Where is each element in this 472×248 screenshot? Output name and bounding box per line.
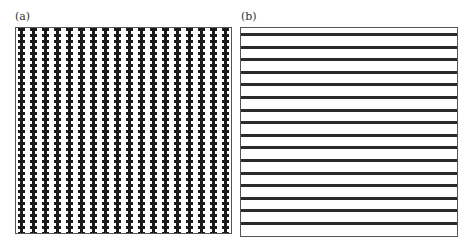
vertical-stripe bbox=[19, 28, 24, 233]
horizontal-stripe bbox=[241, 121, 457, 124]
horizontal-stripe bbox=[241, 33, 457, 36]
horizontal-stripe bbox=[241, 58, 457, 61]
vertical-stripe bbox=[127, 28, 132, 233]
vertical-stripe bbox=[115, 28, 120, 233]
horizontal-stripe bbox=[241, 71, 457, 74]
horizontal-stripe bbox=[241, 184, 457, 187]
vertical-stripe bbox=[31, 28, 36, 233]
panel-b-label: (b) bbox=[241, 10, 257, 23]
vertical-stripe bbox=[55, 28, 60, 233]
horizontal-stripe bbox=[241, 159, 457, 162]
horizontal-stripe bbox=[241, 209, 457, 212]
horizontal-stripe-panel bbox=[240, 27, 458, 237]
horizontal-stripe bbox=[241, 146, 457, 149]
horizontal-stripe bbox=[241, 96, 457, 99]
horizontal-stripe bbox=[241, 197, 457, 200]
vertical-stripe bbox=[211, 28, 216, 233]
horizontal-stripe bbox=[241, 172, 457, 175]
vertical-stripe bbox=[139, 28, 144, 233]
vertical-stripe bbox=[187, 28, 192, 233]
horizontal-stripe bbox=[241, 83, 457, 86]
vertical-stripe-panel bbox=[15, 27, 232, 234]
vertical-stripe bbox=[151, 28, 156, 233]
horizontal-stripe bbox=[241, 134, 457, 137]
vertical-stripe bbox=[103, 28, 108, 233]
horizontal-stripe bbox=[241, 109, 457, 112]
vertical-stripe bbox=[223, 28, 228, 233]
vertical-stripe bbox=[163, 28, 168, 233]
panel-a-label: (a) bbox=[15, 10, 30, 23]
vertical-stripe bbox=[43, 28, 48, 233]
horizontal-stripe bbox=[241, 46, 457, 49]
vertical-stripe bbox=[91, 28, 96, 233]
vertical-stripe bbox=[79, 28, 84, 233]
vertical-stripe bbox=[175, 28, 180, 233]
vertical-stripe bbox=[199, 28, 204, 233]
horizontal-stripe bbox=[241, 222, 457, 225]
vertical-stripe bbox=[67, 28, 72, 233]
